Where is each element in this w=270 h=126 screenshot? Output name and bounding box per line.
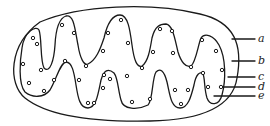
particle bbox=[106, 31, 109, 34]
particle bbox=[186, 88, 189, 91]
particle bbox=[148, 97, 151, 100]
particle bbox=[171, 51, 174, 54]
particle bbox=[31, 36, 34, 39]
outer-membrane bbox=[14, 7, 239, 121]
particle bbox=[125, 74, 128, 77]
particle bbox=[130, 100, 133, 103]
particle bbox=[101, 49, 104, 52]
inner-membrane bbox=[20, 15, 225, 108]
particle bbox=[42, 89, 45, 92]
particle bbox=[179, 102, 182, 105]
particle bbox=[35, 42, 38, 45]
mitochondrion-diagram bbox=[0, 0, 270, 126]
particle bbox=[84, 64, 87, 67]
particle bbox=[119, 18, 122, 21]
particle bbox=[200, 38, 203, 41]
particle bbox=[170, 29, 173, 32]
particle bbox=[220, 68, 223, 71]
particle bbox=[21, 62, 24, 65]
particle bbox=[108, 77, 111, 80]
particle bbox=[102, 73, 105, 76]
particle bbox=[92, 101, 95, 104]
particle bbox=[173, 88, 176, 91]
particle bbox=[72, 31, 75, 34]
particle bbox=[60, 23, 63, 26]
label-b: b bbox=[258, 55, 265, 66]
particle bbox=[214, 49, 217, 52]
particle bbox=[206, 85, 209, 88]
particle bbox=[126, 41, 129, 44]
particle bbox=[39, 68, 42, 71]
particle bbox=[140, 66, 143, 69]
particle bbox=[63, 59, 66, 62]
particle bbox=[101, 86, 104, 89]
label-e: e bbox=[258, 90, 265, 101]
particle bbox=[201, 71, 204, 74]
particle bbox=[27, 81, 30, 84]
particle bbox=[158, 27, 161, 30]
particle bbox=[219, 85, 222, 88]
particle bbox=[189, 65, 192, 68]
particle bbox=[151, 50, 154, 53]
label-a: a bbox=[258, 33, 265, 44]
particle bbox=[86, 101, 89, 104]
particle bbox=[52, 78, 55, 81]
particle bbox=[77, 78, 80, 81]
